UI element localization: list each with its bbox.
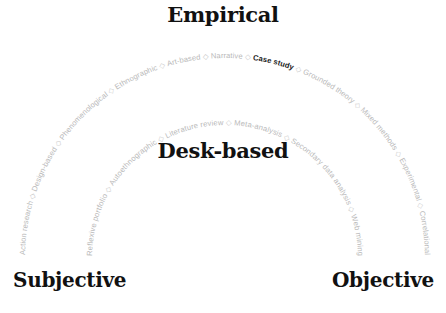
method-item-web-mining: Web mining [349, 213, 365, 256]
research-methods-diagram: Empirical Action research ◇ Design-based… [0, 0, 446, 313]
method-item-experimental: Experimental [397, 156, 423, 202]
separator-diamond-icon: ◇ [224, 118, 235, 127]
method-item-action-research: Action research [18, 200, 35, 255]
method-item-reflexive-portfolio: Reflexive portfolio [85, 192, 109, 256]
method-item-meta-analysis: Meta-analysis [234, 118, 284, 139]
method-item-literature-review: Literature review [164, 118, 224, 140]
method-item-grounded-theory: Grounded theory [302, 67, 357, 105]
separator-diamond-icon: ◇ [200, 52, 211, 62]
label-objective: Objective [332, 268, 434, 292]
label-desk-based: Desk-based [0, 138, 446, 163]
method-item-ethnographic: Ethnographic [113, 63, 159, 91]
method-item-art-based: Art-based [166, 53, 201, 69]
method-item-correlational: Correlational [418, 210, 432, 256]
method-item-phenomenological: Phenomenological [58, 90, 110, 142]
method-item-narrative: Narrative [211, 51, 243, 61]
method-item-case-study: Case study [252, 53, 295, 72]
label-subjective: Subjective [13, 268, 126, 292]
separator-diamond-icon: ◇ [242, 52, 253, 62]
